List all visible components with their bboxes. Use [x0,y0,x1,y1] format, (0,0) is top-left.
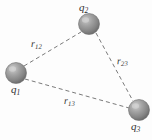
charge-highlight-q3 [132,103,139,109]
distance-label-r23: r23 [117,56,128,68]
charge-triangle-figure: q1 q2 q3 r12 r23 r13 [0,0,152,140]
charge-label-q3-sub: 3 [137,125,141,134]
charge-label-q1: q1 [11,84,20,97]
distance-label-r12: r12 [31,39,42,51]
charge-label-q3: q3 [131,121,140,134]
distance-label-r13: r13 [64,96,75,108]
charge-label-q1-sub: 1 [17,88,21,97]
charge-sphere-q3 [129,100,150,121]
charge-highlight-q2 [82,17,89,23]
charge-label-q2: q2 [79,2,88,15]
distance-label-r13-sub: 13 [68,100,75,107]
diagram-canvas [0,0,152,140]
charge-highlight-q1 [9,66,16,72]
distance-label-r23-sub: 23 [121,60,128,67]
distance-label-r12-sub: 12 [35,43,42,50]
charge-sphere-q1 [6,63,27,84]
charge-label-q2-sub: 2 [85,6,89,15]
line-r13 [25,79,129,108]
charge-sphere-q2 [79,14,100,35]
